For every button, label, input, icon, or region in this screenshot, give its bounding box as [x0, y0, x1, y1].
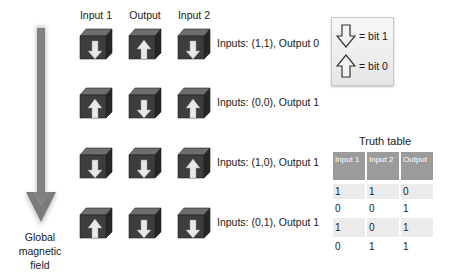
spin-up-arrow-icon	[79, 207, 113, 239]
truth-table: Input 1 Input 2 Output 1 1 0 0 0 1 1 0 1…	[331, 152, 435, 256]
table-cell: 1	[401, 237, 433, 256]
table-row: 1 0 1	[333, 218, 433, 237]
spin-down-arrow-icon	[177, 207, 211, 239]
cube-row3-output	[128, 147, 162, 179]
spin-up-arrow-icon	[128, 28, 162, 60]
legend-item-bit-1: = bit 1	[336, 23, 388, 49]
cube-row2-input-1	[79, 87, 113, 119]
truth-table-header: Input 1	[333, 152, 365, 180]
cube-row1-input-1	[79, 28, 113, 60]
field-label-line: field	[10, 258, 70, 272]
table-row: 0 1 1	[333, 237, 433, 256]
global-field-arrow-icon	[18, 22, 64, 230]
column-header-output: Output	[120, 9, 170, 21]
legend-text-bit-0: = bit 0	[359, 60, 388, 72]
cube-row3-input-1	[79, 147, 113, 179]
legend-text-bit-1: = bit 1	[359, 30, 388, 42]
table-cell: 0	[367, 199, 399, 218]
cube-row1-output	[128, 28, 162, 60]
spin-up-arrow-icon	[177, 147, 211, 179]
column-header-input-1: Input 1	[71, 9, 121, 21]
spin-down-arrow-icon	[128, 87, 162, 119]
cube-row4-input-2	[177, 207, 211, 239]
spin-up-arrow-icon	[79, 87, 113, 119]
spin-down-arrow-icon	[128, 147, 162, 179]
field-label-line: magnetic	[10, 244, 70, 258]
truth-table-title: Truth table	[333, 135, 437, 147]
row-label-2: Inputs: (0,0), Output 1	[217, 96, 319, 108]
row-label-4: Inputs: (0,1), Output 1	[217, 216, 319, 228]
table-row: 0 0 1	[333, 199, 433, 218]
cube-row1-input-2	[177, 28, 211, 60]
spin-down-arrow-icon	[79, 28, 113, 60]
truth-table-header: Input 2	[367, 152, 399, 180]
cube-row4-input-1	[79, 207, 113, 239]
table-cell: 1	[367, 237, 399, 256]
cube-row2-output	[128, 87, 162, 119]
spin-up-arrow-icon	[177, 87, 211, 119]
cube-row2-input-2	[177, 87, 211, 119]
table-cell: 1	[333, 218, 365, 237]
legend-box: = bit 1 = bit 0	[331, 17, 394, 86]
table-cell: 1	[401, 218, 433, 237]
spin-down-arrow-icon	[177, 28, 211, 60]
row-label-1: Inputs: (1,1), Output 0	[217, 37, 319, 49]
global-field-label: Global magnetic field	[10, 230, 70, 272]
down-arrow-icon	[336, 23, 356, 49]
cube-row4-output	[128, 207, 162, 239]
column-header-input-2: Input 2	[169, 9, 219, 21]
table-cell: 1	[367, 180, 399, 199]
spin-down-arrow-icon	[79, 147, 113, 179]
cube-row3-input-2	[177, 147, 211, 179]
legend-item-bit-0: = bit 0	[336, 53, 388, 79]
table-cell: 1	[333, 180, 365, 199]
table-cell: 0	[333, 199, 365, 218]
spin-down-arrow-icon	[128, 207, 162, 239]
table-row: 1 1 0	[333, 180, 433, 199]
up-arrow-icon	[336, 53, 356, 79]
table-cell: 0	[333, 237, 365, 256]
truth-table-header: Output	[401, 152, 433, 180]
field-label-line: Global	[10, 230, 70, 244]
row-label-3: Inputs: (1,0), Output 1	[217, 156, 319, 168]
table-cell: 0	[401, 180, 433, 199]
table-cell: 0	[367, 218, 399, 237]
table-cell: 1	[401, 199, 433, 218]
